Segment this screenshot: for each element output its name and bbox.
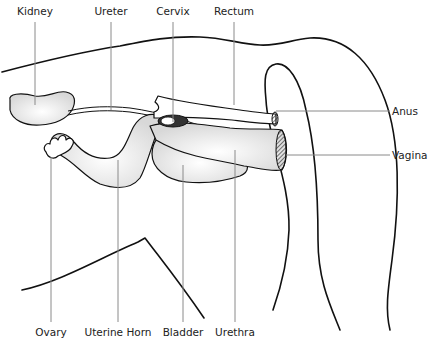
tail-outline [265, 64, 340, 330]
label-kidney: Kidney [17, 5, 53, 17]
label-anus: Anus [392, 105, 418, 117]
label-ureter: Ureter [94, 5, 128, 17]
label-vagina: Vagina [392, 149, 427, 161]
label-rectum: Rectum [214, 5, 254, 17]
label-uterine-horn: Uterine Horn [84, 326, 151, 338]
belly-outline [22, 238, 204, 318]
kidney-shape [10, 92, 75, 125]
label-bladder: Bladder [163, 326, 204, 338]
label-urethra: Urethra [215, 326, 255, 338]
body-back-outline [2, 37, 397, 330]
anatomy-diagram: Kidney Ureter Cervix Rectum Anus Vagina … [0, 0, 430, 344]
label-cervix: Cervix [156, 5, 189, 17]
label-ovary: Ovary [35, 326, 66, 338]
vagina-opening [276, 130, 286, 170]
anus-opening [272, 112, 278, 126]
